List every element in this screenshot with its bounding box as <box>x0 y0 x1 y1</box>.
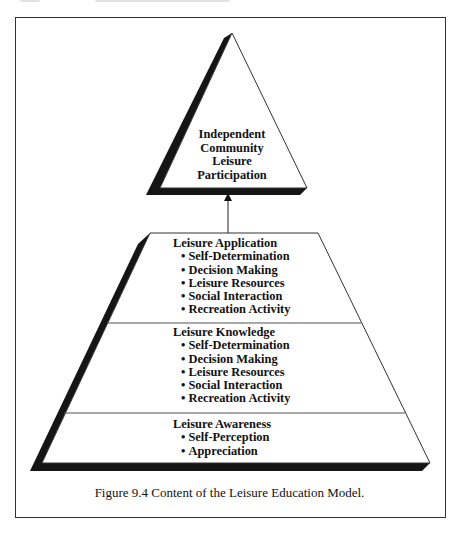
section-item: Self-Perception <box>173 431 271 444</box>
section-heading: Leisure Awareness <box>173 418 271 431</box>
section-item: Leisure Resources <box>173 277 290 290</box>
section-item: Leisure Resources <box>173 366 290 379</box>
section-item: Decision Making <box>173 353 290 366</box>
apex-label-line: Independent <box>172 128 292 142</box>
section-item: Social Interaction <box>173 290 290 303</box>
section-item: Self-Determination <box>173 339 290 352</box>
apex-label-line: Participation <box>172 169 292 183</box>
apex-label-line: Community <box>172 142 292 156</box>
section-item: Recreation Activity <box>173 392 290 405</box>
apex-label-line: Leisure <box>172 155 292 169</box>
section-leisure-knowledge: Leisure Knowledge Self-Determination Dec… <box>173 326 290 406</box>
section-item: Social Interaction <box>173 379 290 392</box>
section-item: Self-Determination <box>173 250 290 263</box>
section-heading: Leisure Knowledge <box>173 326 290 339</box>
section-item: Decision Making <box>173 264 290 277</box>
figure-caption: Figure 9.4 Content of the Leisure Educat… <box>0 485 459 501</box>
section-item: Recreation Activity <box>173 303 290 316</box>
section-item: Appreciation <box>173 445 271 458</box>
apex-label: Independent Community Leisure Participat… <box>172 128 292 182</box>
section-leisure-application: Leisure Application Self-Determination D… <box>173 237 290 317</box>
section-leisure-awareness: Leisure Awareness Self-Perception Apprec… <box>173 418 271 458</box>
section-heading: Leisure Application <box>173 237 290 250</box>
